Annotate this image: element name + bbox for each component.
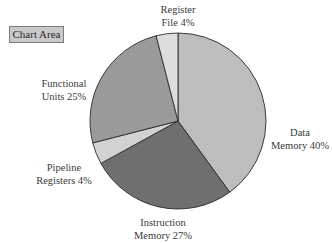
slice-label-data-memory: DataMemory 40% <box>271 127 329 151</box>
slice-label-line: Data <box>290 127 310 138</box>
slice-label-line: File 4% <box>162 17 195 28</box>
slice-label-line: Memory 40% <box>271 140 329 151</box>
slice-label-line: Register <box>161 4 196 15</box>
slice-label-line: Functional <box>42 78 87 89</box>
slice-label-register-file: RegisterFile 4% <box>161 4 196 28</box>
slice-label-line: Units 25% <box>42 91 87 102</box>
pie-slices <box>90 33 266 209</box>
slice-label-instruction-memory: InstructionMemory 27% <box>134 217 192 241</box>
slice-label-functional-units: FunctionalUnits 25% <box>42 78 87 102</box>
slice-label-pipeline-registers: PipelineRegisters 4% <box>36 162 92 186</box>
slice-label-line: Memory 27% <box>134 230 192 241</box>
slice-label-line: Instruction <box>140 217 186 228</box>
slice-label-line: Registers 4% <box>36 175 92 186</box>
chart-area-tag[interactable]: Chart Area <box>9 26 64 43</box>
slice-label-line: Pipeline <box>47 162 82 173</box>
